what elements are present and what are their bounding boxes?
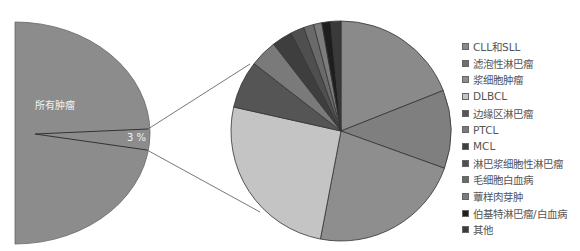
legend-item: 淋巴浆细胞性淋巴瘤 [462,155,567,172]
lymphoma-breakdown-pie [231,21,451,241]
legend-item: 毛细胞白血病 [462,172,567,189]
legend-item: CLL和SLL [462,38,567,55]
legend-swatch-icon [462,193,469,200]
legend-label: 毛细胞白血病 [473,172,533,187]
legend-label: 滤泡性淋巴瘤 [473,56,533,71]
legend-label: DLBCL [473,90,507,102]
legend-swatch-icon [462,226,469,233]
legend-swatch-icon [462,160,469,167]
legend-label: 浆细胞肿瘤 [473,72,523,87]
legend: CLL和SLL滤泡性淋巴瘤浆细胞肿瘤DLBCL边缘区淋巴瘤PTCLMCL淋巴浆细… [462,38,567,238]
legend-label: 伯基特淋巴瘤/白血病 [473,206,567,221]
legend-item: PTCL [462,121,567,138]
legend-item: 边缘区淋巴瘤 [462,105,567,122]
lymphoma-percent-label: 3 % [127,132,146,143]
legend-swatch-icon [462,126,469,133]
legend-item: 伯基特淋巴瘤/白血病 [462,205,567,222]
legend-swatch-icon [462,210,469,217]
legend-swatch-icon [462,143,469,150]
legend-swatch-icon [462,60,469,67]
legend-swatch-icon [462,93,469,100]
legend-swatch-icon [462,176,469,183]
legend-label: MCL [473,140,495,152]
legend-label: 蕈样肉芽肿 [473,189,523,204]
legend-item: 其他 [462,222,567,239]
legend-swatch-icon [462,76,469,83]
legend-label: CLL和SLL [473,39,520,54]
legend-item: DLBCL [462,88,567,105]
legend-swatch-icon [462,110,469,117]
legend-label: PTCL [473,124,498,136]
legend-label: 边缘区淋巴瘤 [473,106,533,121]
legend-item: 滤泡性淋巴瘤 [462,55,567,72]
legend-swatch-icon [462,43,469,50]
legend-item: MCL [462,138,567,155]
legend-item: 浆细胞肿瘤 [462,71,567,88]
all-tumors-label: 所有肿瘤 [35,97,75,112]
legend-item: 蕈样肉芽肿 [462,188,567,205]
legend-label: 其他 [473,222,493,237]
legend-label: 淋巴浆细胞性淋巴瘤 [473,156,563,171]
